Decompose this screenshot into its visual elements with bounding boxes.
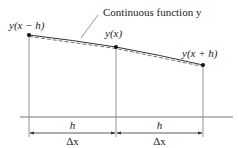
- finite-difference-diagram: Continuous function y y(x − h) y(x) y(x …: [0, 0, 238, 148]
- span-right-dx-label: Δx: [153, 135, 166, 147]
- point-middle: [114, 45, 118, 49]
- span-right-h-label: h: [157, 119, 163, 131]
- callout-leader-line: [81, 15, 98, 38]
- point-middle-label: y(x): [104, 27, 122, 40]
- span-left-h-label: h: [70, 119, 76, 131]
- callout-label: Continuous function y: [103, 6, 202, 18]
- point-left: [27, 33, 31, 37]
- point-left-label: y(x − h): [8, 19, 45, 32]
- point-right: [201, 63, 205, 67]
- span-left-dx-label: Δx: [66, 135, 79, 147]
- point-right-label: y(x + h): [181, 47, 218, 60]
